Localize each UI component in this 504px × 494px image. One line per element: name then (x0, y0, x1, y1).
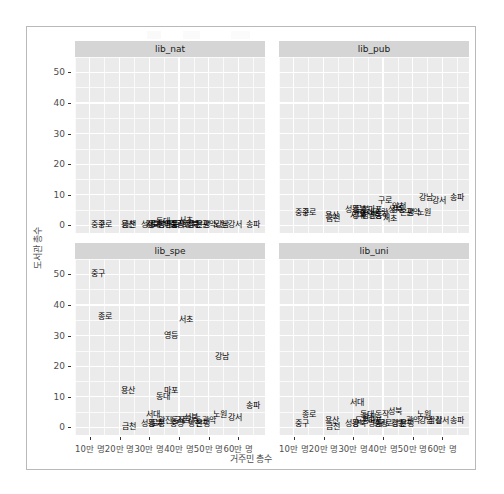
y-tick-label: 30 (54, 331, 65, 341)
y-tick-mark (68, 397, 71, 398)
gridline-v-minor (223, 259, 224, 435)
point-label: 용산 (121, 387, 135, 395)
point-label: 중구 (295, 420, 309, 428)
facet-strip-label-lib_nat: lib_nat (75, 41, 265, 57)
x-axis-ticks-col-0: 10만 명20만 명30만 명40만 명50만 명60만 명 (75, 437, 265, 457)
gridline-v-minor (134, 259, 135, 435)
gridline-v-major (382, 259, 383, 435)
point-label: 은평 (196, 221, 210, 229)
y-tick-label: 10 (54, 392, 65, 402)
gridline-v-minor (427, 57, 428, 233)
point-label: 송파 (450, 194, 464, 202)
y-tick-label: 50 (54, 67, 65, 77)
plot-inner: 도서관 총수 거주민 총수 010203040500102030405010만 … (27, 27, 475, 469)
plot-frame: 도서관 총수 거주민 총수 010203040500102030405010만 … (26, 26, 476, 470)
y-tick-mark (68, 103, 71, 104)
gridline-v-minor (253, 57, 254, 233)
gridline-v-minor (427, 259, 428, 435)
x-tick-label: 10만 명 (75, 442, 105, 454)
x-tick-mark (149, 437, 150, 440)
gridline-v-major (208, 259, 209, 435)
gridline-v-major (442, 259, 443, 435)
scan-artifact (147, 31, 267, 39)
point-label: 강서 (228, 414, 242, 422)
y-tick-mark (68, 164, 71, 165)
x-tick-mark (209, 437, 210, 440)
gridline-v-major (323, 259, 324, 435)
facet-lib_spe: lib_spe중구종로서초영등강남용산마포동대송파서대노원성북금천성동강북도봉광… (75, 243, 265, 435)
x-tick-mark (442, 437, 443, 440)
y-axis-ticks-row-0: 01020304050 (37, 57, 71, 233)
point-label: 은평 (196, 420, 210, 428)
facet-lib_pub: lib_pub중구종로금천용산성동서대강북도봉동대마포광진중랑영등구로강북서초성… (279, 41, 469, 233)
point-label: 강남 (215, 353, 229, 361)
gridline-v-major (323, 57, 324, 233)
gridline-v-major (412, 259, 413, 435)
gridline-v-minor (194, 259, 195, 435)
x-tick-mark (179, 437, 180, 440)
gridline-v-major (353, 259, 354, 435)
gridline-v-minor (194, 57, 195, 233)
y-tick-mark (68, 134, 71, 135)
x-tick-label: 50만 명 (194, 442, 224, 454)
point-label: 노원 (417, 209, 431, 217)
point-label: 관악 (406, 417, 420, 425)
y-tick-mark (68, 305, 71, 306)
x-tick-mark (353, 437, 354, 440)
facet-panel-lib_spe: 중구종로서초영등강남용산마포동대송파서대노원성북금천성동강북도봉광진중랑동작양천… (75, 259, 265, 435)
y-tick-label: 10 (54, 190, 65, 200)
y-tick-label: 40 (54, 98, 65, 108)
x-tick-mark (90, 437, 91, 440)
gridline-v-major (119, 57, 120, 233)
gridline-v-major (178, 57, 179, 233)
facet-lib_uni: lib_uni중구종로용산금천성동서대강북도봉동대동작광진마포노원영등중랑성북구… (279, 243, 469, 435)
y-tick-mark (68, 72, 71, 73)
point-label: 금천 (326, 423, 340, 431)
gridline-v-major (89, 57, 90, 233)
point-label: 송파 (450, 417, 464, 425)
x-tick-mark (324, 437, 325, 440)
y-tick-mark (68, 366, 71, 367)
x-tick-mark (383, 437, 384, 440)
y-tick-mark (68, 274, 71, 275)
facet-panel-lib_nat: 중구종로금천성동용산강북도봉서대동대마포광진중랑영등서초성북동작양천구로강동관악… (75, 57, 265, 233)
gridline-v-major (208, 57, 209, 233)
facet-strip-label-lib_spe: lib_spe (75, 243, 265, 259)
x-tick-label: 20만 명 (105, 442, 135, 454)
x-axis-ticks-col-1: 10만 명20만 명30만 명40만 명50만 명60만 명 (279, 437, 469, 457)
x-tick-mark (294, 437, 295, 440)
facet-lib_nat: lib_nat중구종로금천성동용산강북도봉서대동대마포광진중랑영등서초성북동작양… (75, 41, 265, 233)
point-label: 강서 (228, 221, 242, 229)
y-tick-label: 20 (54, 361, 65, 371)
point-label: 송파 (246, 402, 260, 410)
point-label: 강북 (352, 212, 366, 220)
y-tick-label: 40 (54, 300, 65, 310)
facet-strip-label-lib_pub: lib_pub (279, 41, 469, 57)
x-tick-mark (413, 437, 414, 440)
point-label: 구로 (174, 417, 188, 425)
point-label: 성북 (388, 408, 402, 416)
point-label: 종로 (302, 411, 316, 419)
point-label: 강남 (215, 221, 229, 229)
point-label: 중구 (91, 270, 105, 278)
point-label: 은평 (400, 209, 414, 217)
gridline-v-minor (104, 259, 105, 435)
gridline-v-minor (457, 259, 458, 435)
x-tick-label: 50만 명 (398, 442, 428, 454)
point-label: 종로 (98, 313, 112, 321)
gridline-v-minor (338, 259, 339, 435)
gridline-v-major (149, 259, 150, 435)
gridline-v-minor (338, 57, 339, 233)
x-tick-label: 20만 명 (309, 442, 339, 454)
gridline-v-minor (223, 57, 224, 233)
point-label: 영등 (164, 332, 178, 340)
gridline-v-major (238, 259, 239, 435)
x-tick-label: 30만 명 (134, 442, 164, 454)
point-label: 용산 (325, 212, 339, 220)
point-label: 강서 (435, 417, 449, 425)
point-label: 서초 (179, 316, 193, 324)
point-label: 구로 (378, 420, 392, 428)
point-label: 용산 (121, 221, 135, 229)
x-tick-label: 10만 명 (279, 442, 309, 454)
y-tick-label: 0 (59, 220, 65, 230)
